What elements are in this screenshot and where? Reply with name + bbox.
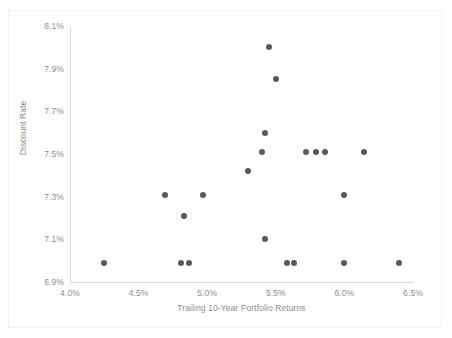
scatter-point: [341, 260, 347, 266]
y-tick-label: 7.3%: [44, 192, 64, 202]
scatter-point: [313, 149, 319, 155]
scatter-point: [266, 44, 272, 50]
x-tick-label: 5.5%: [266, 288, 286, 298]
scatter-point: [361, 149, 367, 155]
scatter-point: [259, 149, 265, 155]
scatter-point: [186, 260, 192, 266]
y-axis-title: Discount Rate: [18, 78, 28, 178]
scatter-point: [396, 260, 402, 266]
y-tick-label: 8.1%: [44, 21, 64, 31]
y-tick-label: 7.9%: [44, 64, 64, 74]
y-tick-label: 7.5%: [44, 149, 64, 159]
scatter-point: [284, 260, 290, 266]
x-axis-line: [70, 282, 414, 283]
x-tick-label: 4.5%: [129, 288, 149, 298]
scatter-point: [162, 192, 168, 198]
scatter-point: [178, 260, 184, 266]
x-tick-label: 6.5%: [403, 288, 423, 298]
y-tick-label: 6.9%: [44, 277, 64, 287]
scatter-point: [341, 192, 347, 198]
scatter-point: [200, 192, 206, 198]
scatter-point: [181, 213, 187, 219]
x-tick-label: 6.0%: [335, 288, 355, 298]
x-axis-tick-labels: 4.0%4.5%5.0%5.5%6.0%6.5%: [70, 288, 413, 302]
x-tick-label: 4.0%: [60, 288, 80, 298]
scatter-point: [303, 149, 309, 155]
scatter-point: [322, 149, 328, 155]
x-axis-title: Trailing 10-Year Portfolio Returns: [70, 303, 413, 313]
scatter-point: [245, 168, 251, 174]
chart-container: 6.9%7.1%7.3%7.5%7.7%7.9%8.1% 4.0%4.5%5.0…: [8, 10, 442, 328]
scatter-plot-area: [70, 26, 413, 282]
y-tick-label: 7.7%: [44, 106, 64, 116]
y-tick-label: 7.1%: [44, 234, 64, 244]
scatter-point: [101, 260, 107, 266]
x-tick-label: 5.0%: [197, 288, 217, 298]
scatter-point: [262, 236, 268, 242]
scatter-point: [273, 76, 279, 82]
scatter-point: [262, 130, 268, 136]
scatter-point: [291, 260, 297, 266]
